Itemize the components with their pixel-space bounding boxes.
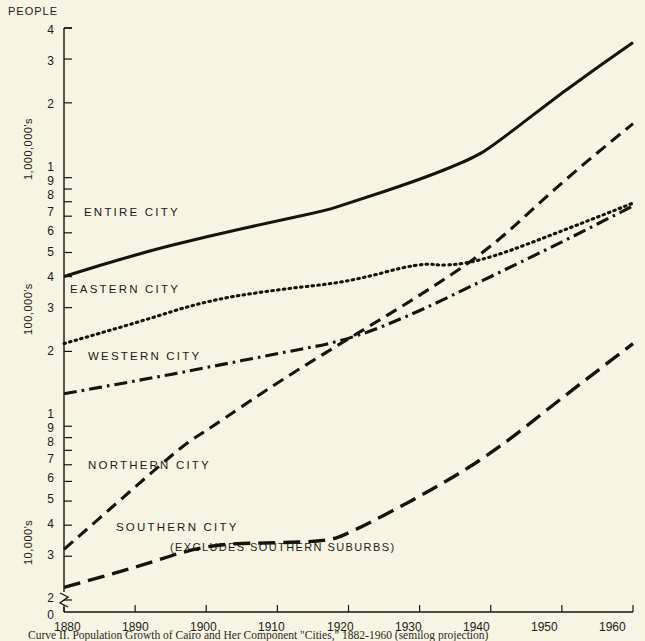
series-line-southern-city	[64, 344, 633, 588]
series-line-northern-city	[64, 124, 633, 550]
figure-caption: Curve II. Population Growth of Cairo and…	[28, 629, 488, 641]
series-line-eastern-city	[64, 203, 633, 344]
series-line-western-city	[64, 206, 633, 394]
series-line-entire-city	[64, 42, 633, 276]
